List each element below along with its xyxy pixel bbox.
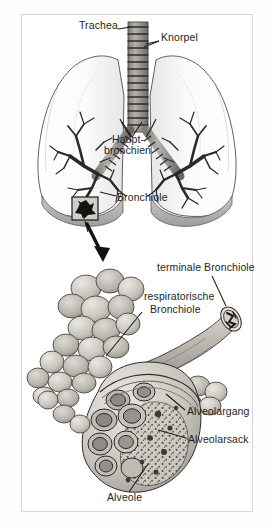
label-alveolarsack: Alveolarsack: [188, 434, 249, 446]
transition-arrow: [87, 224, 110, 262]
label-alveole: Alveole: [107, 492, 142, 504]
label-bronchiole: Bronchiole: [117, 192, 168, 204]
anatomy-figure: Trachea Knorpel Haupt- bronchien Bronchi…: [0, 0, 275, 531]
label-alveolargang: Alveolargang: [187, 406, 250, 418]
inset-callout-box: [72, 197, 98, 220]
label-terminale-bronchiole: terminale Bronchiole: [157, 262, 255, 274]
label-respiratorische-line2: Bronchiole: [150, 304, 201, 316]
label-respiratorische-line1: respiratorische: [144, 291, 214, 303]
label-knorpel: Knorpel: [161, 32, 198, 44]
label-trachea: Trachea: [79, 20, 118, 32]
trachea-cartilage-rings: [128, 22, 148, 132]
label-hauptbronchien-line2: bronchien: [104, 145, 151, 157]
